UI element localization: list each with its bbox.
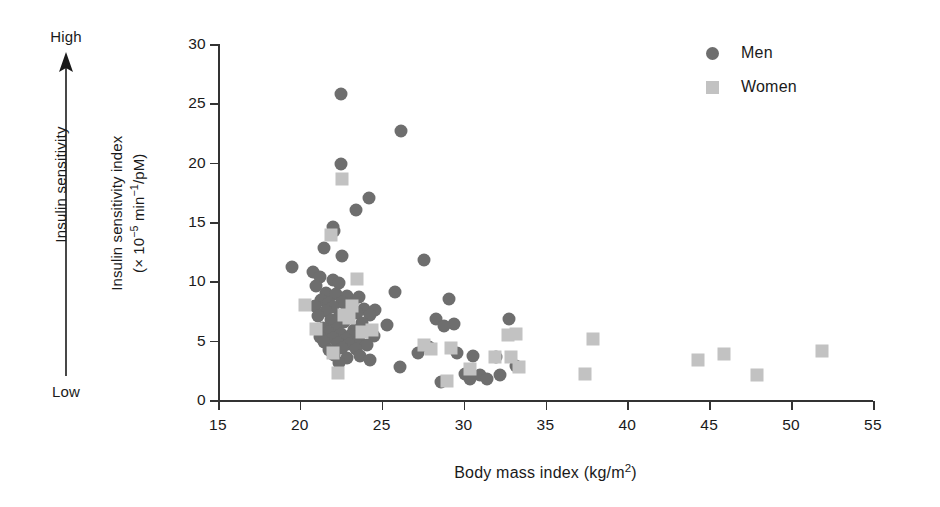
scatter-point-men [313,331,326,344]
scatter-point-men [510,359,523,372]
insulin-sensitivity-arrow-annotation: High Insulin sensitivity Low [18,28,114,400]
scatter-point-men [447,318,460,331]
scatter-point-men [343,312,356,325]
scatter-point-women [326,346,339,359]
y-tick-label: 15 [172,213,206,231]
x-tick-mark [218,401,220,410]
scatter-point-men [418,253,431,266]
scatter-point-men [333,310,346,323]
scatter-point-men [334,327,347,340]
y-tick-label: 0 [172,391,206,409]
scatter-point-men [347,323,360,336]
scatter-point-men [351,307,364,320]
scatter-point-women [424,342,437,355]
y-tick-mark [210,281,218,283]
scatter-point-women [365,323,378,336]
scatter-point-men [364,308,377,321]
legend-square-icon [706,81,719,94]
scatter-point-men [306,265,319,278]
legend-circle-icon [706,47,719,60]
scatter-point-women [441,375,454,388]
scatter-point-men [334,157,347,170]
scatter-point-women [717,347,730,360]
scatter-point-women [513,360,526,373]
scatter-point-men [369,303,382,316]
scatter-point-men [326,220,339,233]
x-tick-label: 15 [198,416,238,434]
x-tick-label: 50 [771,416,811,434]
legend-label: Men [741,44,773,62]
scatter-point-men [423,340,436,353]
scatter-point-men [315,294,328,307]
scatter-point-men [339,333,352,346]
scatter-point-women [505,351,518,364]
scatter-point-men [341,289,354,302]
scatter-point-men [411,346,424,359]
scatter-point-men [474,369,487,382]
scatter-point-women [464,363,477,376]
scatter-point-men [362,192,375,205]
scatter-point-men [434,376,447,389]
arrow-caption-label: Insulin sensitivity [52,85,69,285]
scatter-point-women [310,322,323,335]
scatter-point-men [467,350,480,363]
x-tick-label: 40 [607,416,647,434]
scatter-point-women [586,333,599,346]
scatter-point-men [464,372,477,385]
scatter-point-men [395,124,408,137]
scatter-point-men [320,305,333,318]
scatter-point-women [501,328,514,341]
x-tick-label: 35 [526,416,566,434]
scatter-point-men [437,320,450,333]
scatter-point-men [341,352,354,365]
scatter-point-men [380,319,393,332]
y-tick-label: 30 [172,35,206,53]
scatter-point-men [357,302,370,315]
scatter-point-women [816,345,829,358]
scatter-point-men [346,297,359,310]
x-tick-mark [300,401,302,410]
scatter-point-men [361,339,374,352]
chart-page: High Insulin sensitivity Low Insulin sen… [0,0,940,507]
scatter-point-men [336,295,349,308]
scatter-point-men [364,353,377,366]
scatter-point-men [336,250,349,263]
scatter-point-men [320,287,333,300]
y-tick-mark [210,400,218,402]
scatter-point-men [318,242,331,255]
scatter-point-men [328,225,341,238]
scatter-point-men [359,325,372,338]
scatter-point-men [429,313,442,326]
scatter-point-women [578,367,591,380]
y-tick-label: 10 [172,272,206,290]
scatter-point-men [393,360,406,373]
scatter-point-women [298,299,311,312]
y-axis-line [218,44,220,400]
y-tick-mark [210,222,218,224]
y-tick-mark [210,44,218,46]
x-axis-title: Body mass index (kg/m2) [218,462,873,482]
x-tick-mark [627,401,629,410]
scatter-point-men [339,306,352,319]
y-tick-label: 5 [172,332,206,350]
scatter-point-women [331,366,344,379]
scatter-point-men [321,326,334,339]
scatter-point-men [333,357,346,370]
scatter-point-women [750,369,763,382]
y-tick-label: 20 [172,154,206,172]
scatter-point-men [310,280,323,293]
scatter-point-men [285,261,298,274]
scatter-point-men [331,337,344,350]
y-tick-mark [210,341,218,343]
x-tick-label: 25 [362,416,402,434]
legend-item-women[interactable]: Women [706,70,896,104]
legend-item-men[interactable]: Men [706,36,896,70]
x-tick-label: 20 [280,416,320,434]
scatter-point-men [311,309,324,322]
scatter-point-women [351,272,364,285]
scatter-point-men [316,321,329,334]
arrow-high-label: High [18,28,114,45]
scatter-point-men [349,342,362,355]
x-tick-mark [791,401,793,410]
scatter-point-women [324,229,337,242]
